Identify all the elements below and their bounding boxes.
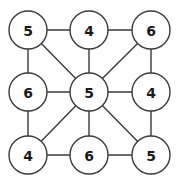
graph-canvas: 546654465 xyxy=(0,0,177,185)
node-label-middle-right: 4 xyxy=(146,85,156,101)
node-label-bottom-right: 5 xyxy=(146,148,156,164)
graph-node-middle-right[interactable]: 4 xyxy=(132,73,170,111)
graph-node-bottom-right[interactable]: 5 xyxy=(132,136,170,174)
node-label-middle-left: 6 xyxy=(23,85,33,101)
graph-edge-top-left-to-center xyxy=(41,44,75,79)
graph-diagram: 546654465 xyxy=(0,0,177,185)
graph-edge-bottom-right-to-center xyxy=(102,106,137,142)
node-label-top-left: 5 xyxy=(23,23,33,39)
nodes-group: 546654465 xyxy=(9,11,170,174)
node-label-top-right: 6 xyxy=(146,23,156,39)
graph-node-bottom-left[interactable]: 4 xyxy=(9,136,47,174)
node-label-bottom-center: 6 xyxy=(84,148,94,164)
graph-edge-bottom-left-to-center xyxy=(41,106,76,142)
node-label-bottom-left: 4 xyxy=(23,148,33,164)
graph-edge-top-right-to-center xyxy=(102,43,137,78)
node-label-top-center: 4 xyxy=(84,23,94,39)
graph-node-top-right[interactable]: 6 xyxy=(132,11,170,49)
node-label-center: 5 xyxy=(84,85,94,101)
graph-node-center[interactable]: 5 xyxy=(70,73,108,111)
graph-node-top-left[interactable]: 5 xyxy=(9,11,47,49)
graph-node-top-center[interactable]: 4 xyxy=(70,11,108,49)
graph-node-middle-left[interactable]: 6 xyxy=(9,73,47,111)
graph-node-bottom-center[interactable]: 6 xyxy=(70,136,108,174)
